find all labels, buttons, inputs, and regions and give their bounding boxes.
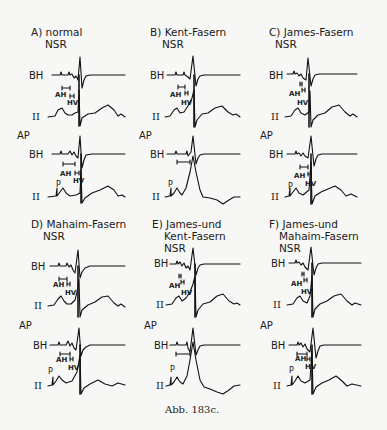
ecg-traces-a bbox=[0, 0, 130, 205]
ecg-traces-f bbox=[255, 200, 387, 405]
ecg-traces-e bbox=[130, 200, 260, 405]
panel-d-mahaim: D) Mahaim-Fasern NSR BH II AP BH II AH H… bbox=[0, 200, 130, 405]
panel-c-james: C) James-Fasern NSR BH II AP BH II AH HV… bbox=[255, 0, 385, 205]
ecg-traces-d bbox=[0, 200, 130, 405]
figure-caption: Abb. 183c. bbox=[165, 404, 219, 415]
panel-b-kent: B) Kent-Fasern NSR BH II AP BH II AH HV … bbox=[130, 0, 260, 205]
ecg-traces-c bbox=[255, 0, 387, 205]
panel-e-james-kent: E) James-und Kent-Fasern NSR BH II AP BH… bbox=[130, 200, 260, 405]
ecg-traces-b bbox=[130, 0, 260, 205]
panel-a-normal: A) normal NSR BH II AP BH II AH HV AH HV… bbox=[0, 0, 130, 205]
panel-f-james-mahaim: F) James-und Mahaim-Fasern NSR BH II AP … bbox=[255, 200, 385, 405]
